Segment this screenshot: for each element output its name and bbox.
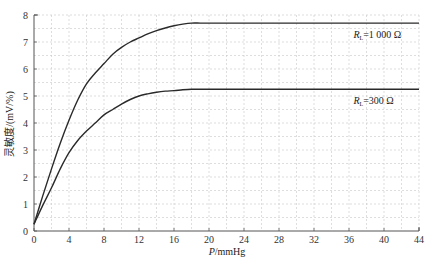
y-tick-label: 2 [23, 172, 28, 183]
x-tick-label: 8 [102, 234, 107, 245]
y-tick-label: 3 [23, 145, 28, 156]
x-axis-label: P/mmHg [208, 246, 246, 257]
y-tick-label: 5 [23, 91, 28, 102]
x-tick-label: 24 [239, 234, 249, 245]
x-tick-label: 44 [414, 234, 424, 245]
series-label: RL=1 000 Ω [352, 29, 401, 41]
y-tick-label: 4 [23, 118, 28, 129]
x-axis-label-unit: /mmHg [215, 246, 246, 257]
x-tick-label: 0 [32, 234, 37, 245]
x-tick-label: 36 [344, 234, 354, 245]
y-axis-ticks: 012345678 [23, 10, 37, 237]
y-tick-label: 7 [23, 37, 28, 48]
x-tick-label: 4 [67, 234, 72, 245]
series-annotations: RL=1 000 ΩRL=300 Ω [352, 29, 401, 107]
grid-lines [34, 15, 419, 231]
x-tick-label: 40 [379, 234, 389, 245]
x-tick-label: 16 [169, 234, 179, 245]
x-tick-label: 28 [274, 234, 284, 245]
y-tick-label: 1 [23, 199, 28, 210]
y-tick-label: 6 [23, 64, 28, 75]
x-tick-label: 32 [309, 234, 319, 245]
x-axis-label-var: P [208, 246, 215, 257]
y-axis-label: 灵敏度/(mV/%) [3, 91, 16, 157]
x-tick-label: 20 [204, 234, 214, 245]
series-label: RL=300 Ω [352, 95, 393, 107]
chart-canvas: 048121620242832364044 012345678 RL=1 000… [0, 0, 435, 266]
x-tick-label: 12 [134, 234, 144, 245]
y-tick-label: 0 [23, 226, 28, 237]
y-tick-label: 8 [23, 10, 28, 21]
